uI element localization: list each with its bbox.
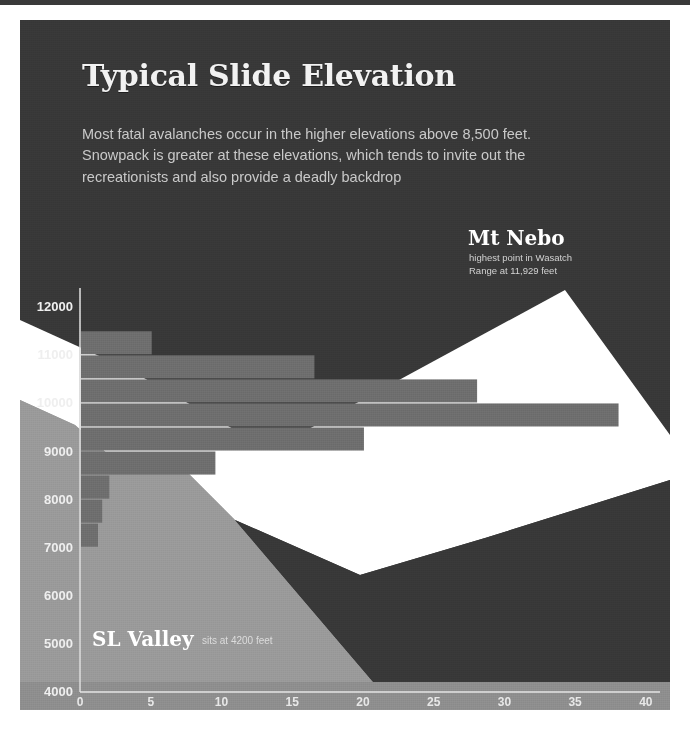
y-tick-label: 8000 xyxy=(44,492,73,507)
y-tick-label: 7000 xyxy=(44,540,73,555)
y-tick-label: 5000 xyxy=(44,636,73,651)
x-tick-label: 10 xyxy=(215,695,229,709)
y-tick-label: 11000 xyxy=(38,347,73,362)
y-tick-label: 6000 xyxy=(44,588,73,603)
sl-valley-subtitle: sits at 4200 feet xyxy=(202,635,273,646)
mt-nebo-subline-2: Range at 11,929 feet xyxy=(469,265,557,276)
annotation-mt-nebo: Mt Nebo highest point in Wasatch Range a… xyxy=(468,226,572,276)
x-tick-label: 35 xyxy=(568,695,582,709)
mt-nebo-title: Mt Nebo xyxy=(468,226,565,250)
deck-paragraph: Most fatal avalanches occur in the highe… xyxy=(82,124,582,188)
histogram-bar xyxy=(81,452,215,475)
y-tick-label: 9000 xyxy=(44,444,73,459)
sl-valley-title: SL Valley xyxy=(92,627,195,651)
infographic-poster: 400050006000700080009000100001100012000 … xyxy=(20,20,670,710)
histogram-bar xyxy=(81,379,477,402)
page-title: Typical Slide Elevation xyxy=(82,58,456,93)
x-tick-label: 15 xyxy=(286,695,300,709)
histogram-bar xyxy=(81,331,152,354)
x-tick-label: 5 xyxy=(147,695,154,709)
y-tick-label: 10000 xyxy=(37,395,73,410)
histogram-bar xyxy=(81,500,102,523)
histogram-bar xyxy=(81,403,619,426)
top-rule xyxy=(0,0,690,5)
mt-nebo-subline-1: highest point in Wasatch xyxy=(469,252,572,263)
histogram-bar xyxy=(81,427,364,450)
histogram-bar xyxy=(81,476,109,499)
x-tick-label: 30 xyxy=(498,695,512,709)
x-tick-label: 0 xyxy=(77,695,84,709)
histogram-bar xyxy=(81,355,314,378)
y-tick-label: 4000 xyxy=(44,684,73,699)
x-tick-label: 20 xyxy=(356,695,370,709)
x-tick-label: 40 xyxy=(639,695,653,709)
histogram-bar xyxy=(81,524,98,547)
x-tick-label: 25 xyxy=(427,695,441,709)
y-tick-label: 12000 xyxy=(37,299,73,314)
